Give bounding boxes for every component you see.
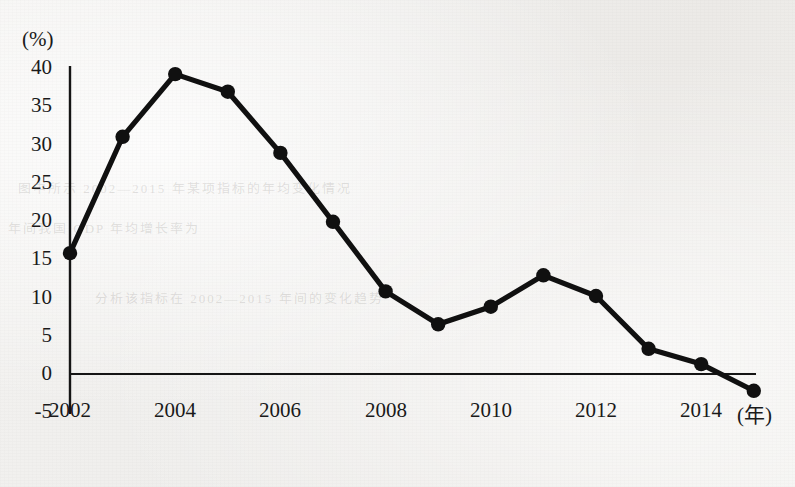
y-axis-unit-label: (%) [22,27,53,52]
y-tick-label: 0 [6,361,52,386]
data-point [536,268,550,282]
y-tick-label: 10 [6,285,52,310]
x-tick-label: 2008 [346,398,426,423]
data-point [378,284,392,298]
data-point [63,246,77,260]
x-axis-unit-label: (年) [737,398,772,428]
data-point [221,85,235,99]
x-tick-label: 2004 [135,398,215,423]
data-point [641,342,655,356]
x-tick-label: 2002 [30,398,110,423]
data-point [115,130,129,144]
x-tick-label: 2006 [240,398,320,423]
y-tick-label: 30 [6,132,52,157]
x-tick-label: 2012 [556,398,636,423]
y-tick-label: 15 [6,246,52,271]
data-point [484,300,498,314]
data-point [694,357,708,371]
data-point [747,384,761,398]
y-tick-label: 5 [6,323,52,348]
scanned-chart-page: 图中所示 2002—2015 年某项指标的年均变化情况 年间我国 GDP 年均增… [0,0,795,487]
x-tick-label: 2014 [661,398,741,423]
data-point [168,67,182,81]
y-tick-label: 20 [6,208,52,233]
data-point [273,146,287,160]
data-point [326,215,340,229]
y-tick-label: 25 [6,170,52,195]
data-point [589,289,603,303]
y-tick-label: 35 [6,93,52,118]
x-tick-label: 2010 [451,398,531,423]
data-point [431,317,445,331]
y-tick-label: 40 [6,55,52,80]
